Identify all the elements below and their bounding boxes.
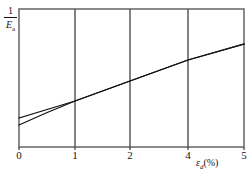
series-line-lower-branch [19, 44, 244, 125]
x-tick-label-1: 1 [67, 150, 83, 161]
chart-figure: 1 Ea 0 1 2 4 5 εd(%) [0, 0, 252, 177]
x-tick-label-0: 0 [11, 150, 27, 161]
x-tick-label-5: 5 [236, 150, 252, 161]
axis-frame [19, 9, 244, 147]
x-tick-label-2: 2 [122, 150, 138, 161]
x-tick-label-4: 4 [180, 150, 196, 161]
x-axis-label: εd(%) [196, 158, 218, 171]
